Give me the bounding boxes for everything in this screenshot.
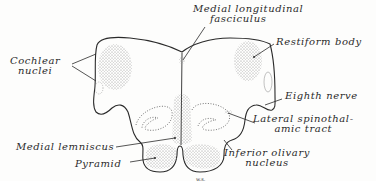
label-line: Pyramid [75,159,121,169]
medulla-cross-section-diagram: Cochlear nuclei Medial longitudinal fasc… [0,0,376,181]
inferior-olivary-right [192,103,230,130]
label-line: Restiform body [276,37,362,47]
small-oval-right [264,72,272,92]
label-line: amic tract [253,124,354,134]
label-line: nuclei [10,66,60,76]
label-cochlear-nuclei: Cochlear nuclei [10,56,60,76]
label-line: Eighth nerve [285,91,358,101]
label-line: fasciculus [193,14,303,24]
restiform-body-region [234,41,262,81]
label-line: nucleus [224,158,310,168]
artist-signature: w.s. [196,174,205,181]
label-medial-longitudinal-fasciculus: Medial longitudinal fasciculus [193,4,303,24]
label-inferior-olivary-nucleus: Inferior olivary nucleus [224,148,310,168]
pyramid-left-region [146,144,177,169]
medial-lemniscus-region [172,94,192,145]
inferior-olivary-left [136,106,172,130]
label-lateral-spinothalamic-tract: Lateral spinothal- amic tract [253,114,354,134]
cochlear-nuclei-region [98,44,132,90]
label-eighth-nerve: Eighth nerve [285,91,358,101]
label-restiform-body: Restiform body [276,37,362,47]
small-oval-left [95,82,103,94]
label-medial-lemniscus: Medial lemniscus [16,142,114,152]
mlf-region [179,56,185,64]
label-line: Medial lemniscus [16,142,114,152]
label-pyramid: Pyramid [75,159,121,169]
pyramid-right-region [184,144,220,168]
